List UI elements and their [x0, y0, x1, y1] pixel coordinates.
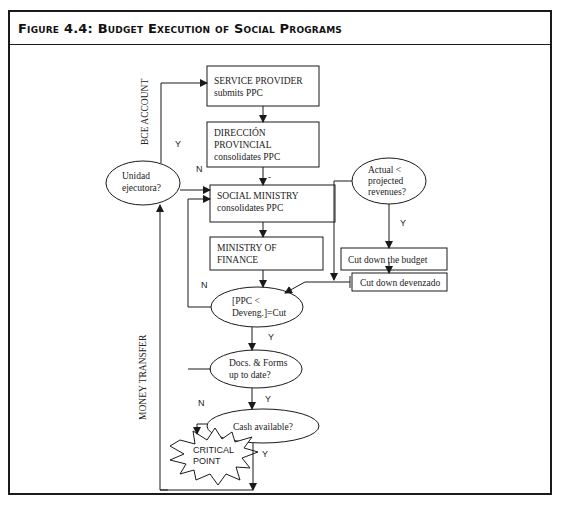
y-unidad-label: Y [175, 139, 181, 149]
critical-point-label-1: CRITICAL [193, 445, 234, 455]
dash-label: - [268, 172, 271, 182]
actual-label-1: Actual < [368, 165, 401, 175]
direccion-label-2: PROVINCIAL [214, 140, 272, 150]
ministry-finance-label-2: FINANCE [217, 255, 258, 265]
money-transfer-label: MONEY TRANSFER [138, 334, 148, 420]
y-ppc-label: Y [268, 332, 274, 342]
unidad-label-1: Unidad [122, 171, 150, 181]
docs-forms-decision [210, 350, 302, 388]
n-ppc-label: N [201, 280, 208, 290]
unidad-label-2: ejecutora? [122, 183, 161, 193]
cash-available-label: Cash available? [233, 422, 293, 432]
y-cash-label: Y [262, 449, 268, 459]
ppc-deveng-label-1: [PPC < [232, 296, 260, 306]
actual-label-2: projected [368, 176, 404, 186]
ppc-deveng-decision [211, 287, 303, 327]
ppc-deveng-label-2: Deveng.]=Cut [232, 308, 287, 318]
service-provider-box [207, 66, 319, 106]
social-ministry-label-1: SOCIAL MINISTRY [217, 191, 299, 201]
service-provider-label-1: SERVICE PROVIDER [214, 76, 303, 86]
direccion-label-3: consolidates PPC [214, 152, 280, 162]
n-cash-label: N [198, 398, 205, 408]
cut-budget-label: Cut down the budget [348, 255, 428, 265]
n-unidad-label: N [196, 164, 203, 174]
docs-forms-label-2: up to date? [229, 370, 271, 380]
docs-forms-label-1: Docs. & Forms [229, 358, 288, 368]
service-provider-label-2: submits PPC [214, 88, 263, 98]
critical-point-label-2: POINT [193, 456, 221, 466]
bce-account-label: BCE ACCOUNT [140, 79, 150, 145]
actual-label-3: revenues? [368, 187, 406, 197]
cut-devenzado-label: Cut down devenzado [360, 278, 440, 288]
ministry-finance-label-1: MINISTRY OF [217, 243, 277, 253]
y-docs-label: Y [265, 394, 271, 404]
direccion-label-1: DIRECCIÓN [214, 127, 266, 138]
y-actual-label: Y [400, 218, 406, 228]
flowchart: SERVICE PROVIDER submits PPC DIRECCIÓN P… [0, 0, 562, 511]
social-ministry-label-2: consolidates PPC [217, 203, 283, 213]
ministry-finance-box [210, 237, 323, 270]
